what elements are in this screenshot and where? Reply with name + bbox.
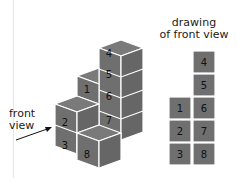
drawing-title: drawing of front view bbox=[156, 17, 232, 41]
cube-label-5: 5 bbox=[106, 69, 112, 80]
front-view-label: front view bbox=[9, 108, 35, 132]
grid-label-4: 4 bbox=[201, 57, 207, 68]
grid-label-8: 8 bbox=[201, 149, 207, 160]
cube-label-3: 3 bbox=[62, 140, 68, 151]
grid-label-7: 7 bbox=[201, 126, 207, 137]
cube-label-1: 1 bbox=[84, 84, 90, 95]
cube-label-8: 8 bbox=[84, 149, 90, 160]
cube-label-2: 2 bbox=[62, 117, 68, 128]
cube-label-6: 6 bbox=[106, 91, 112, 102]
grid-label-2: 2 bbox=[177, 126, 183, 137]
cube-label-4: 4 bbox=[106, 48, 112, 59]
grid-label-5: 5 bbox=[201, 80, 207, 91]
cube-label-7: 7 bbox=[106, 115, 112, 126]
grid-label-3: 3 bbox=[177, 149, 183, 160]
diagram: 4 5 6 7 1 2 3 8 4 5 1 6 bbox=[0, 0, 237, 178]
grid-label-6: 6 bbox=[201, 103, 207, 114]
grid-label-1: 1 bbox=[177, 103, 183, 114]
